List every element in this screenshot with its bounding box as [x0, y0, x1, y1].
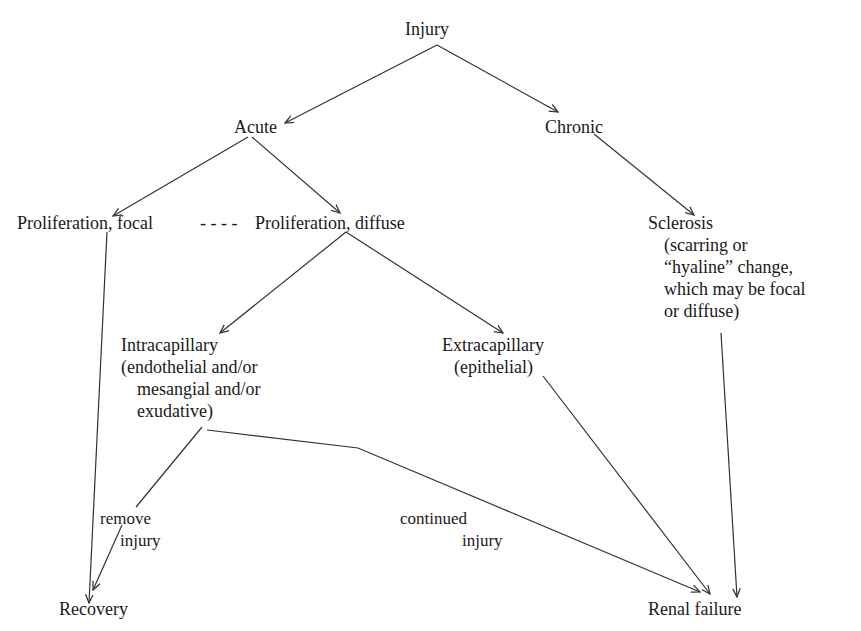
- node-extracapillary: Extracapillary (epithelial): [442, 334, 544, 378]
- node-chronic: Chronic: [545, 116, 603, 138]
- label-remove-injury: injury: [120, 530, 161, 552]
- edge-focal-recovery: [89, 232, 107, 603]
- node-recovery: Recovery: [59, 598, 128, 620]
- node-proliferation-diffuse: Proliferation, diffuse: [255, 212, 405, 234]
- node-sclerosis: Sclerosis (scarring or “hyaline” change,…: [648, 212, 805, 322]
- sclerosis-detail-1: (scarring or: [648, 234, 805, 256]
- sclerosis-detail-4: or diffuse): [648, 300, 805, 322]
- label-remove: remove: [100, 508, 151, 530]
- edge-injury-chronic: [437, 45, 558, 112]
- edge-diffuse-extracapillary: [346, 232, 503, 333]
- sclerosis-detail-3: which may be focal: [648, 278, 805, 300]
- intracapillary-title: Intracapillary: [121, 334, 260, 356]
- node-proliferation-focal: Proliferation, focal: [17, 212, 153, 234]
- extracapillary-detail-1: (epithelial): [442, 356, 544, 378]
- edge-diffuse-intracapillary: [220, 232, 346, 333]
- node-renal-failure: Renal failure: [648, 598, 741, 620]
- node-intracapillary: Intracapillary (endothelial and/or mesan…: [121, 334, 260, 422]
- edge-acute-diffuse: [252, 137, 340, 213]
- edge-chronic-sclerosis: [594, 134, 694, 215]
- intracapillary-detail-1: (endothelial and/or: [121, 356, 260, 378]
- glomerular-injury-diagram: Injury Acute Chronic Proliferation, foca…: [0, 0, 861, 631]
- edge-injury-acute: [285, 45, 437, 123]
- label-continued-injury: injury: [462, 530, 503, 552]
- edge-sclerosis-renal: [721, 333, 737, 597]
- edge-intracapillary-recovery-a: [136, 427, 202, 507]
- edge-acute-focal: [113, 137, 248, 216]
- extracapillary-title: Extracapillary: [442, 334, 544, 356]
- node-acute: Acute: [234, 116, 277, 138]
- sclerosis-detail-2: “hyaline” change,: [648, 256, 805, 278]
- intracapillary-detail-3: exudative): [121, 400, 260, 422]
- label-continued: continued: [400, 508, 467, 530]
- edge-intracapillary-recovery-b: [93, 525, 122, 590]
- sclerosis-title: Sclerosis: [648, 212, 805, 234]
- node-injury: Injury: [405, 18, 449, 40]
- intracapillary-detail-2: mesangial and/or: [121, 378, 260, 400]
- dashed-link: - - - -: [200, 212, 237, 234]
